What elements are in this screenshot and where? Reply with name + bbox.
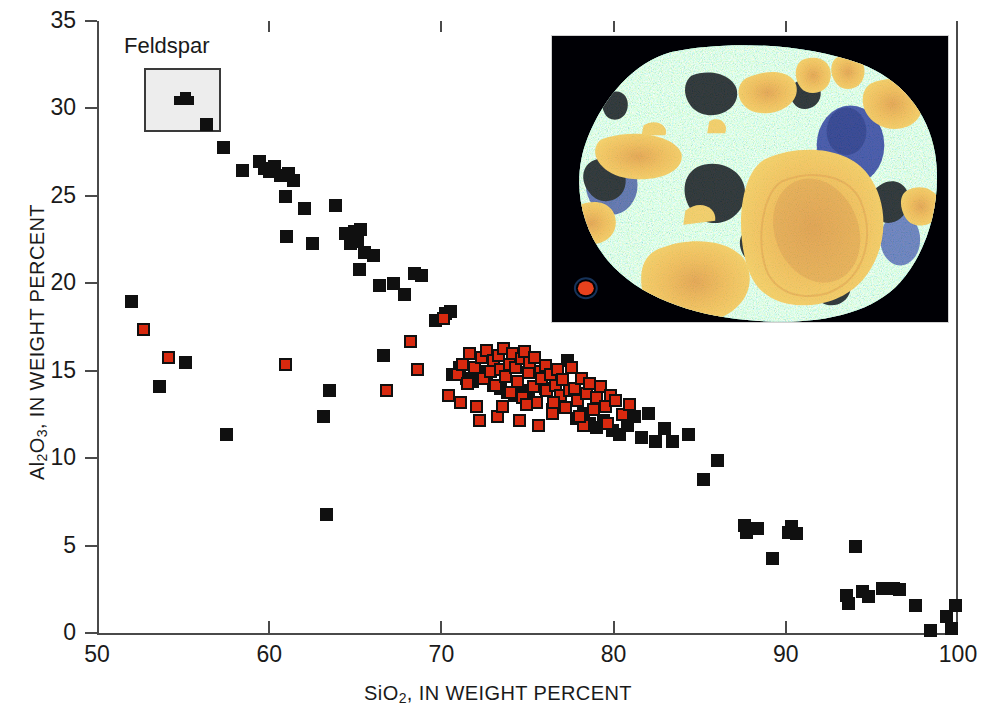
y-tick-label: 35: [18, 9, 76, 32]
x-tick-label: 80: [579, 643, 649, 666]
data-point: [398, 288, 411, 301]
y-tick: [85, 632, 97, 634]
data-point: [236, 164, 249, 177]
inset-svg: [552, 36, 948, 322]
data-point: [628, 410, 641, 423]
data-point: [909, 599, 922, 612]
y-tick-label: 0: [18, 621, 76, 644]
data-point: [137, 323, 150, 336]
data-point: [849, 540, 862, 553]
data-point: [893, 583, 906, 596]
data-point: [559, 401, 572, 414]
data-point: [711, 454, 724, 467]
x-axis-title: SiO2, IN WEIGHT PERCENT: [0, 682, 996, 706]
data-point: [354, 223, 367, 236]
data-point: [442, 389, 455, 402]
data-point: [317, 410, 330, 423]
data-point: [454, 396, 467, 409]
data-point: [404, 335, 417, 348]
data-point: [642, 407, 655, 420]
data-point: [682, 428, 695, 441]
inset-red-spot: [578, 281, 594, 295]
data-point: [279, 190, 292, 203]
data-point: [287, 174, 300, 187]
data-point: [649, 435, 662, 448]
x-tick-label: 70: [406, 643, 476, 666]
y-axis-title: Al2O3, IN WEIGHT PERCENT: [26, 82, 50, 602]
x-tick-label: 50: [62, 643, 132, 666]
data-point: [323, 384, 336, 397]
data-point: [697, 473, 710, 486]
data-point: [217, 141, 230, 154]
data-point: [470, 400, 483, 413]
y-tick: [85, 370, 97, 372]
data-point: [573, 410, 586, 423]
data-point: [790, 527, 803, 540]
data-point: [924, 624, 937, 637]
data-point: [623, 398, 636, 411]
y-tick: [85, 545, 97, 547]
x-tick-label: 60: [234, 643, 304, 666]
data-point: [179, 356, 192, 369]
x-axis-line: [97, 633, 958, 635]
data-point: [601, 417, 614, 430]
y-tick: [85, 107, 97, 109]
y-tick: [85, 282, 97, 284]
data-point: [473, 414, 486, 427]
data-point: [461, 377, 474, 390]
y-tick: [85, 195, 97, 197]
x-tick-label: 100: [923, 643, 993, 666]
data-point: [547, 396, 560, 409]
data-point: [279, 358, 292, 371]
data-point: [125, 295, 138, 308]
data-point: [513, 414, 526, 427]
data-point: [842, 597, 855, 610]
data-point: [751, 522, 764, 535]
data-point: [153, 380, 166, 393]
data-point: [411, 363, 424, 376]
x-tick-label: 90: [751, 643, 821, 666]
data-point: [520, 398, 533, 411]
data-point: [658, 422, 671, 435]
data-point: [463, 347, 476, 360]
data-point: [220, 428, 233, 441]
data-point: [415, 269, 428, 282]
data-point: [306, 237, 319, 250]
data-point: [766, 552, 779, 565]
data-point: [437, 312, 450, 325]
data-point: [377, 349, 390, 362]
y-tick: [85, 20, 97, 22]
y-tick: [85, 457, 97, 459]
data-point: [329, 199, 342, 212]
data-point: [373, 279, 386, 292]
data-point: [380, 384, 393, 397]
data-point: [635, 431, 648, 444]
data-point: [496, 400, 509, 413]
data-point: [162, 351, 175, 364]
data-point: [949, 599, 962, 612]
figure-root: 051015202530355060708090100 SiO2, IN WEI…: [0, 0, 996, 716]
data-point: [587, 403, 600, 416]
data-point: [320, 508, 333, 521]
data-point: [862, 590, 875, 603]
data-point: [367, 249, 380, 262]
inset-micrograph-image: [551, 35, 949, 323]
data-point: [609, 394, 622, 407]
data-point: [532, 419, 545, 432]
data-point: [298, 202, 311, 215]
data-point: [945, 622, 958, 635]
data-point: [666, 435, 679, 448]
data-point: [353, 263, 366, 276]
data-point: [280, 230, 293, 243]
